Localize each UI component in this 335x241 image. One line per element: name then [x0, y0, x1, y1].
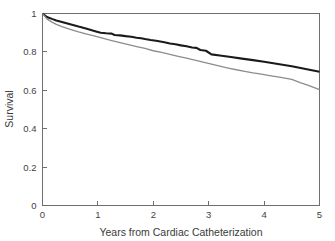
x-axis-title: Years from Cardiac Catheterization: [99, 226, 262, 238]
plot-frame: [43, 14, 320, 206]
y-tick-label: 0: [31, 200, 36, 211]
y-axis-title: Survival: [3, 90, 15, 127]
x-tick-label: 2: [151, 209, 156, 220]
y-tick-label: 0.8: [23, 46, 36, 57]
upper-survival-curve: [43, 14, 320, 72]
y-tick-label: 1: [31, 8, 36, 19]
lower-survival-curve: [43, 14, 320, 90]
x-tick-label: 4: [261, 209, 266, 220]
y-axis-ticks: [43, 14, 48, 206]
x-axis-tick-labels: 012345: [40, 209, 322, 220]
x-tick-label: 5: [317, 209, 322, 220]
chart-canvas: 012345 00.20.40.60.81 Years from Cardiac…: [0, 0, 335, 241]
x-axis-ticks: [43, 201, 320, 206]
x-tick-label: 3: [206, 209, 211, 220]
x-tick-label: 1: [95, 209, 100, 220]
y-axis-tick-labels: 00.20.40.60.81: [23, 8, 36, 211]
data-series-group: [43, 14, 320, 90]
x-tick-label: 0: [40, 209, 45, 220]
y-tick-label: 0.4: [23, 123, 36, 134]
survival-chart-figure: 012345 00.20.40.60.81 Years from Cardiac…: [0, 0, 335, 241]
y-tick-label: 0.2: [23, 162, 36, 173]
y-tick-label: 0.6: [23, 85, 36, 96]
